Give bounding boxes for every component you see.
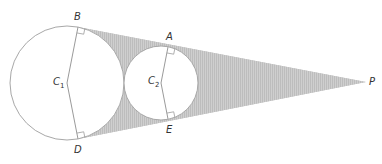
- label-a: A: [165, 31, 173, 42]
- label-c1-sub: 1: [60, 82, 64, 90]
- label-d: D: [74, 144, 82, 155]
- label-p: P: [369, 76, 376, 87]
- label-c2-main: C: [148, 75, 155, 86]
- label-c2-sub: 2: [155, 81, 159, 89]
- label-c1-main: C: [53, 76, 60, 87]
- label-c1: C: [53, 76, 60, 87]
- label-c2: C: [148, 75, 155, 86]
- tangent-circles-diagram: B D A E P C 1 C 2: [0, 0, 382, 164]
- label-e: E: [166, 124, 173, 135]
- label-b: B: [74, 11, 81, 22]
